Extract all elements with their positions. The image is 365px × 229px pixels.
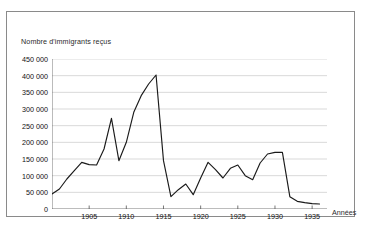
y-tick-label: 450 000 [10,55,48,64]
plot-area [52,59,327,209]
y-tick-label: 200 000 [10,138,48,147]
y-tick-label: 400 000 [10,72,48,81]
y-tick-label: 0 [10,205,48,214]
y-tick-label: 250 000 [10,122,48,131]
y-tick-label: 300 000 [10,105,48,114]
x-tick-label: 1920 [188,212,214,221]
y-axis-title: Nombre d'immigrants reçus [21,37,111,46]
x-tick-label: 1905 [76,212,102,221]
chart-frame: Nombre d'immigrants reçus Années 450 000… [6,11,355,217]
data-series-line [52,75,320,204]
x-axis-title: Années [332,208,356,217]
x-tick-label: 1930 [262,212,288,221]
x-tick-label: 1935 [299,212,325,221]
x-tick-label: 1925 [225,212,251,221]
x-tick-label: 1910 [113,212,139,221]
x-tick-label: 1915 [150,212,176,221]
y-tick-label: 350 000 [10,88,48,97]
y-tick-label: 150 000 [10,155,48,164]
immigration-line-chart [52,59,327,209]
y-tick-label: 100 000 [10,172,48,181]
y-tick-label: 50 000 [10,188,48,197]
x-axis-tick-marks [89,206,312,210]
